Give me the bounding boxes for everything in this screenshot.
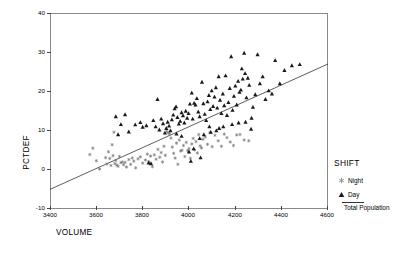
data-point-night [197, 133, 200, 136]
data-point-day [230, 122, 234, 126]
data-point-night [112, 130, 115, 133]
data-point-night [134, 166, 137, 169]
data-point-night [229, 140, 232, 143]
data-point-night [164, 154, 167, 157]
data-point-night [109, 164, 112, 167]
data-point-night [88, 153, 91, 156]
data-point-day [171, 113, 175, 117]
legend-label-night: Night [348, 177, 363, 184]
x-tick-label-4200: 4200 [220, 211, 250, 218]
data-point-day [228, 86, 232, 90]
data-point-night [127, 158, 130, 161]
data-point-day [207, 93, 211, 97]
y-tick-label-40: 40 [25, 9, 45, 16]
data-point-day [278, 81, 282, 85]
legend-item-total-population: Total Population [334, 202, 409, 211]
data-point-night [95, 159, 98, 162]
data-point-day [241, 77, 245, 81]
data-point-day [249, 116, 253, 120]
data-point-day [221, 124, 225, 128]
data-point-night [185, 141, 188, 144]
data-point-day [253, 92, 257, 96]
data-point-day [225, 113, 229, 117]
y-tick-label-neg10: -10 [25, 204, 45, 211]
x-tick-label-3600: 3600 [81, 211, 111, 218]
data-point-night [196, 151, 199, 154]
data-point-day [185, 116, 189, 120]
data-point-night [175, 141, 178, 144]
triangle-icon [334, 191, 348, 198]
data-point-night [190, 142, 193, 145]
data-point-night [163, 145, 166, 148]
data-point-day [190, 91, 194, 95]
data-point-night [192, 137, 195, 140]
data-point-day [236, 121, 240, 125]
data-point-night [232, 144, 235, 147]
data-point-day [212, 95, 216, 99]
data-point-day [233, 84, 237, 88]
data-point-day [203, 112, 207, 116]
data-point-night [144, 158, 147, 161]
data-point-day [239, 88, 243, 92]
data-point-day [161, 121, 165, 125]
data-point-night [91, 147, 94, 150]
data-point-day [167, 124, 171, 128]
data-point-day [217, 74, 221, 78]
data-point-day [123, 112, 127, 116]
data-point-day [214, 85, 218, 89]
data-point-day [198, 155, 202, 159]
data-point-day [261, 74, 265, 78]
data-point-day [224, 74, 228, 78]
data-point-day [232, 94, 236, 98]
data-point-day [243, 71, 247, 75]
data-point-night [217, 139, 220, 142]
data-point-night [156, 148, 159, 151]
data-point-night [153, 153, 156, 156]
data-point-day [201, 101, 205, 105]
data-point-day [133, 123, 137, 127]
data-point-day [263, 97, 267, 101]
trendline-total-population [50, 64, 328, 189]
data-point-day [215, 106, 219, 110]
data-point-night [206, 143, 209, 146]
data-point-day [226, 100, 230, 104]
data-point-day [114, 114, 118, 118]
data-point-day [204, 118, 208, 122]
x-tick-label-4400: 4400 [266, 211, 296, 218]
data-point-day [144, 123, 148, 127]
data-point-night [149, 154, 152, 157]
data-point-day [170, 117, 174, 121]
data-points-svg [50, 13, 328, 209]
data-point-day [298, 62, 302, 66]
data-point-night [223, 132, 226, 135]
data-point-night [111, 143, 114, 146]
data-point-day [243, 120, 247, 124]
data-point-night [247, 139, 250, 142]
data-point-night [200, 146, 203, 149]
data-point-night [129, 163, 132, 166]
data-point-day [189, 159, 193, 163]
data-point-day [195, 96, 199, 100]
data-point-night [112, 154, 115, 157]
data-point-day [211, 104, 215, 108]
data-point-night [238, 133, 241, 136]
data-point-night [182, 144, 185, 147]
x-axis-title: VOLUME [56, 228, 92, 237]
data-point-night [155, 158, 158, 161]
data-point-day [207, 124, 211, 128]
data-point-night [174, 156, 177, 159]
data-point-day [290, 63, 294, 67]
data-point-night [176, 163, 179, 166]
data-point-day [218, 98, 222, 102]
data-point-night [220, 145, 223, 148]
data-point-night [122, 163, 125, 166]
data-point-day [184, 109, 188, 113]
data-point-night [151, 165, 154, 168]
data-point-day [182, 121, 186, 125]
data-point-night [146, 152, 149, 155]
y-axis-title: PCTDEF [22, 123, 31, 183]
data-point-day [198, 136, 202, 140]
data-point-night [226, 136, 229, 139]
data-point-night [104, 156, 107, 159]
x-tick-label-4000: 4000 [173, 211, 203, 218]
